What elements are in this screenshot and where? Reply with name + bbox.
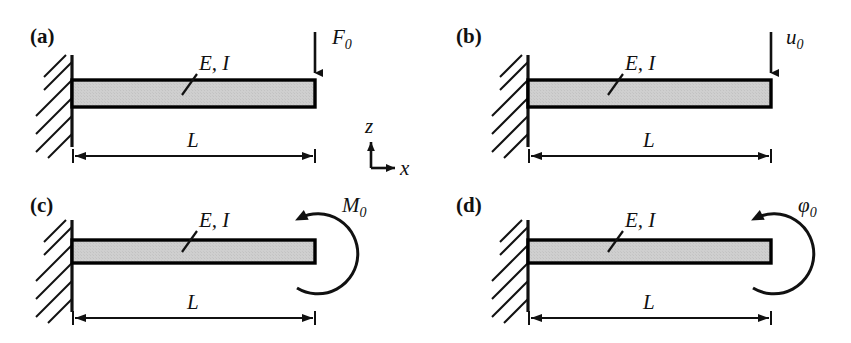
panel-d: (d) E, I φ0 L: [456, 193, 817, 325]
panel-c-dimension: L: [73, 290, 315, 325]
beam-body: [72, 80, 315, 107]
panel-d-dimension: L: [529, 290, 771, 325]
wall-hatching: [36, 220, 72, 323]
moment-label: M0: [341, 193, 367, 220]
wall-hatching: [36, 55, 72, 158]
panel-c-beam: [72, 240, 315, 263]
panel-d-label: (d): [456, 193, 482, 217]
panel-c: (c) E, I M0 L: [30, 193, 367, 325]
panel-a-force-load: F0: [315, 25, 352, 73]
panel-b-fixed-support: [492, 55, 528, 158]
rotation-label: φ0: [798, 193, 817, 220]
dimension-label: L: [642, 128, 655, 152]
displacement-label: u0: [786, 25, 804, 52]
panel-a-fixed-support: [36, 55, 72, 158]
panel-a: (a) E, I F0 L: [30, 24, 352, 163]
panel-b-dimension: L: [529, 128, 771, 163]
wall-hatching: [492, 55, 528, 158]
beam-body: [528, 240, 771, 263]
panel-b-displacement-load: u0: [771, 25, 804, 73]
panel-c-label: (c): [30, 193, 53, 217]
dimension-label: L: [186, 128, 199, 152]
force-label: F0: [331, 25, 352, 52]
panel-c-fixed-support: [36, 220, 72, 323]
cantilever-beam-figure: (a) E, I F0 L: [0, 0, 851, 343]
panel-d-fixed-support: [492, 220, 528, 323]
material-label: E, I: [624, 51, 656, 75]
panel-a-beam: [72, 80, 315, 107]
beam-body: [528, 80, 771, 107]
dimension-label: L: [186, 290, 199, 314]
panel-b: (b) E, I u0 L: [456, 24, 804, 163]
panel-d-beam: [528, 240, 771, 263]
panel-a-dimension: L: [73, 128, 315, 163]
panel-b-beam: [528, 80, 771, 107]
z-axis-label: z: [364, 114, 373, 138]
x-axis-label: x: [399, 156, 410, 180]
panel-a-label: (a): [30, 24, 55, 48]
panel-b-label: (b): [456, 24, 482, 48]
dimension-label: L: [642, 290, 655, 314]
wall-hatching: [492, 220, 528, 323]
material-label: E, I: [624, 208, 656, 232]
material-label: E, I: [198, 208, 230, 232]
material-label: E, I: [198, 51, 230, 75]
beam-body: [72, 240, 315, 263]
coordinate-axes: z x: [364, 114, 410, 180]
